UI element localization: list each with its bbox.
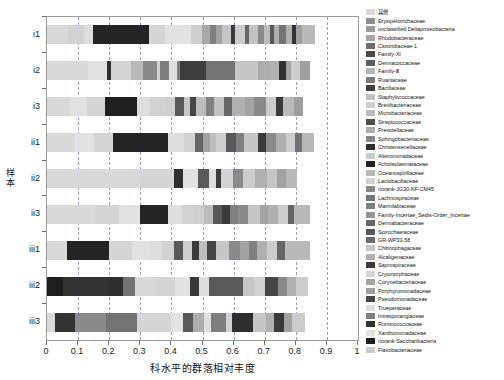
legend-label: Xanthomonadaceae	[378, 330, 426, 336]
legend-item[interactable]: Porphyromonadaceae	[366, 286, 502, 294]
legend-item[interactable]: Lachnospiraceae	[366, 194, 502, 202]
bar-segment	[68, 25, 84, 44]
bar-segment	[240, 241, 249, 260]
legend-item[interactable]: norank-JG30-KF-CM45	[366, 185, 502, 193]
legend-swatch	[366, 102, 375, 108]
legend-item[interactable]: Trueperaceae	[366, 303, 502, 311]
bar-segment	[203, 133, 210, 152]
legend-item[interactable]: Staphylococcaceae	[366, 92, 502, 100]
bar-segment	[55, 313, 76, 332]
legend-item[interactable]: Streptococcaceae	[366, 118, 502, 126]
legend-label: Rhodobacteraceae	[378, 35, 424, 41]
bar-segment	[140, 169, 174, 188]
bar-segment	[137, 313, 171, 332]
legend-item[interactable]: Family-Ⅲ	[366, 67, 502, 75]
bar-segment	[216, 241, 228, 260]
legend-item[interactable]: Spirochaetaceae	[366, 227, 502, 235]
legend-item[interactable]: Lactobacillaceae	[366, 177, 502, 185]
bar-segment	[182, 205, 194, 224]
legend-item[interactable]: Xanthomonadaceae	[366, 329, 502, 337]
legend-item[interactable]: Prevotellaceae	[366, 126, 502, 134]
legend-item[interactable]: Sphingobacteriaceae	[366, 135, 502, 143]
bar-segment	[183, 313, 192, 332]
bar-segment	[266, 313, 275, 332]
legend-item[interactable]: Microbacteriaceae	[366, 109, 502, 117]
bar-segment	[214, 97, 225, 116]
legend-item[interactable]: Saprospiraceae	[366, 261, 502, 269]
bar-segment	[109, 241, 131, 260]
legend-item[interactable]: Pseudomonadaceae	[366, 295, 502, 303]
legend-item[interactable]: Chitinophagaceae	[366, 244, 502, 252]
bar-segment	[291, 61, 300, 80]
legend-item[interactable]: Cryomorphaceae	[366, 270, 502, 278]
bar-segment	[199, 277, 208, 296]
bar-segment	[47, 61, 88, 80]
legend-item[interactable]: Family-Incertae_Sedis-Order_Incertae	[366, 211, 502, 219]
legend-item[interactable]: norank-Saccharibacteria	[366, 337, 502, 345]
x-tick	[326, 341, 327, 345]
legend-label: 其他	[378, 9, 388, 15]
legend-item[interactable]: Clostridiaceae-1	[366, 42, 502, 50]
legend-swatch	[366, 136, 375, 142]
legend-item[interactable]: Intrasporangiaceae	[366, 312, 502, 320]
bar-segment	[131, 61, 143, 80]
legend-item[interactable]: Acholeplasmataceae	[366, 160, 502, 168]
legend-item[interactable]: 其他	[366, 8, 502, 16]
bar-segment	[119, 205, 141, 224]
bar-segment	[135, 277, 156, 296]
legend-item[interactable]: Family-Ⅺ	[366, 50, 502, 58]
legend-label: Brevibacteriaceae	[378, 102, 421, 108]
legend-item[interactable]: Rhodobacteraceae	[366, 33, 502, 41]
bar-segment	[216, 133, 227, 152]
legend-item[interactable]: Ruminococcaceae	[366, 320, 502, 328]
legend-item[interactable]: Bacillaceae	[366, 84, 502, 92]
legend-label: Porphyromonadaceae	[378, 288, 431, 294]
bar-segment	[196, 97, 205, 116]
legend-label: Ruaniaceae	[378, 77, 407, 83]
legend-item[interactable]: Oceanospirillaceae	[366, 168, 502, 176]
bar-segment	[150, 241, 162, 260]
x-tick-label: 0.8	[289, 346, 302, 356]
y-tick	[42, 88, 46, 89]
legend-label: Saprospiraceae	[378, 262, 416, 268]
x-tick	[202, 341, 203, 345]
y-tick-label: ii3	[0, 208, 40, 218]
bar-segment	[171, 313, 183, 332]
bar-segment	[67, 241, 110, 260]
legend-label: Erysipelotrichaceae	[378, 18, 425, 24]
legend-item[interactable]: Erysipelotrichaceae	[366, 16, 502, 24]
bar-segment	[269, 61, 280, 80]
legend-item[interactable]: Dermacoccaceae	[366, 59, 502, 67]
legend-swatch	[366, 220, 375, 226]
legend-item[interactable]: Flavobacteriaceae	[366, 346, 502, 354]
bar-segment	[169, 61, 176, 80]
bar-segment	[168, 205, 182, 224]
legend-item[interactable]: unclassified Deltaproteobacteria	[366, 25, 502, 33]
legend-item[interactable]: Alteromonadaceae	[366, 151, 502, 159]
x-tick	[46, 341, 47, 345]
legend-label: Trueperaceae	[378, 305, 411, 311]
legend-item[interactable]: Corynebacteriaceae	[366, 278, 502, 286]
y-tick	[42, 231, 46, 232]
bar-segment	[47, 241, 67, 260]
bar-segment	[204, 313, 211, 332]
bar-segment	[279, 61, 286, 80]
bar-segment	[95, 205, 118, 224]
y-tick-label: iii2	[0, 280, 40, 290]
legend-item[interactable]: Dermabacteraceae	[366, 219, 502, 227]
x-tick	[264, 341, 265, 345]
bar-segment	[254, 277, 265, 296]
legend-item[interactable]: Ruaniaceae	[366, 76, 502, 84]
bar-segment	[184, 133, 195, 152]
bar-segment	[195, 133, 202, 152]
legend-item[interactable]: Alcaligenaceae	[366, 253, 502, 261]
legend-item[interactable]: Christensenellaceae	[366, 143, 502, 151]
legend-swatch	[366, 144, 375, 150]
bar-segment	[268, 205, 277, 224]
legend-item[interactable]: Marinilabiaceae	[366, 202, 502, 210]
bar-segment	[296, 277, 308, 296]
legend-item[interactable]: GR-WP33-58	[366, 236, 502, 244]
legend-item[interactable]: Brevibacteriaceae	[366, 101, 502, 109]
bar-iii3	[47, 313, 358, 332]
bar-segment	[137, 97, 149, 116]
